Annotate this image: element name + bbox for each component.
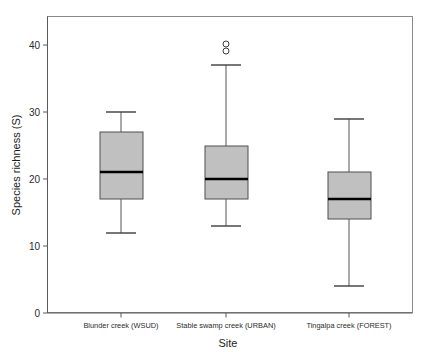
x-tick-label-tingalpa-creek: Tingalpa creek (FOREST) xyxy=(306,321,391,330)
x-tick-group xyxy=(121,313,349,318)
x-tick-label-stable-swamp-creek: Stable swamp creek (URBAN) xyxy=(176,321,275,330)
y-tick-label-10: 10 xyxy=(29,241,41,252)
outlier-point xyxy=(223,48,229,54)
boxplot-figure: 0 10 20 30 40 Species richness (S) Blund… xyxy=(0,0,429,352)
box-body xyxy=(205,146,248,199)
box-body xyxy=(100,132,143,199)
boxplot-svg: 0 10 20 30 40 Species richness (S) Blund… xyxy=(0,0,429,352)
y-tick-label-0: 0 xyxy=(34,308,40,319)
y-tick-group: 0 10 20 30 40 xyxy=(29,40,48,319)
box-blunder-creek xyxy=(100,112,143,233)
y-axis-title: Species richness (S) xyxy=(10,115,22,216)
x-axis-title: Site xyxy=(219,337,238,349)
box-tingalpa-creek xyxy=(328,119,371,286)
y-tick-label-30: 30 xyxy=(29,107,41,118)
y-tick-label-20: 20 xyxy=(29,174,41,185)
y-tick-label-40: 40 xyxy=(29,40,41,51)
box-stable-swamp-creek xyxy=(205,41,248,226)
outlier-point xyxy=(223,41,229,47)
x-tick-label-blunder-creek: Blunder creek (WSUD) xyxy=(83,321,158,330)
box-body xyxy=(328,172,371,219)
